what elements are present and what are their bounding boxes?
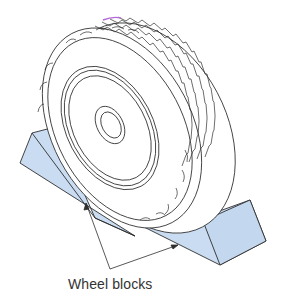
arrowhead-right: [171, 245, 178, 249]
tread-highlight: [103, 17, 121, 20]
wheel-blocks-diagram: Wheel blocks: [0, 0, 284, 299]
wheel-blocks-label: Wheel blocks: [68, 276, 152, 292]
illustration: [0, 0, 284, 299]
